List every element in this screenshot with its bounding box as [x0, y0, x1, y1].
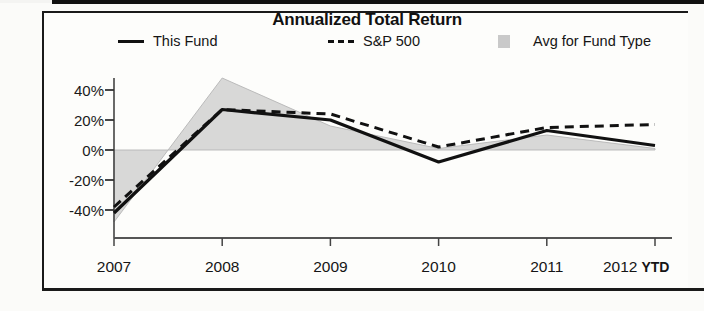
chart-legend: This Fund S&P 500 Avg for Fund Type	[108, 30, 704, 52]
dashed-line-swatch-icon	[328, 40, 354, 43]
page-title: Annualized Total Return	[0, 10, 704, 30]
page-top-rule	[52, 0, 704, 4]
legend-label-this-fund: This Fund	[153, 33, 217, 49]
y-axis-tick-label: 0%	[34, 142, 104, 159]
legend-item-sp500: S&P 500	[328, 30, 420, 52]
area-swatch-icon	[498, 35, 510, 48]
solid-line-swatch-icon	[118, 40, 144, 43]
chart-panel-bottom-rule	[42, 288, 704, 291]
legend-label-avg-fund-type: Avg for Fund Type	[533, 33, 651, 49]
x-axis-tick-label: 2009	[313, 258, 347, 276]
y-axis-tick-label: -40%	[34, 202, 104, 219]
y-axis-tick-label: 40%	[34, 82, 104, 99]
x-axis-tick-label: 2012YTD	[603, 258, 669, 276]
x-axis-tick-label: 2007	[97, 258, 131, 276]
x-axis-tick-label: 2011	[530, 258, 563, 276]
x-axis-ytd-suffix: YTD	[641, 259, 669, 275]
scanned-page: Annualized Total Return This Fund S&P 50…	[0, 0, 704, 311]
x-axis-tick-labels: 200720082009201020112012YTD	[0, 258, 704, 284]
x-axis-tick-label: 2010	[421, 258, 455, 276]
chart-panel-border	[42, 11, 688, 290]
y-axis-tick-label: 20%	[34, 112, 104, 129]
y-axis-tick-label: -20%	[34, 172, 104, 189]
legend-label-sp500: S&P 500	[363, 33, 420, 49]
legend-item-this-fund: This Fund	[118, 30, 217, 52]
legend-item-avg-fund-type: Avg for Fund Type	[498, 30, 651, 52]
x-axis-tick-label: 2008	[205, 258, 239, 276]
